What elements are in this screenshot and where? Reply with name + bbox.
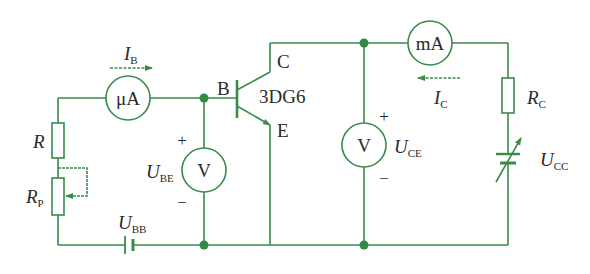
rc-label: RC [526, 87, 546, 110]
collector-loop-wires [270, 43, 508, 245]
uce-plus-sign: + [379, 107, 389, 126]
base-loop-wires [58, 98, 364, 245]
ube-minus-sign: − [177, 193, 187, 212]
rp-label: RP [25, 186, 44, 209]
r-label: R [32, 131, 45, 152]
ubb-label: UBB [118, 212, 146, 235]
base-label: B [217, 78, 230, 99]
emitter-label: E [277, 120, 289, 141]
circuit-diagram: μA mA V V B C E 3DG6 IB IC R RP RC UBB U… [0, 0, 590, 274]
transistor-model: 3DG6 [259, 86, 305, 107]
ib-label: IB [123, 43, 138, 66]
uce-minus-sign: − [379, 169, 389, 188]
battery-ubb [125, 236, 133, 254]
ube-voltmeter-symbol: V [197, 160, 211, 181]
ic-label: IC [433, 87, 448, 110]
microammeter-symbol: μA [116, 88, 140, 109]
resistor-rc [502, 78, 514, 113]
milliammeter-symbol: mA [416, 33, 445, 54]
uce-voltmeter-symbol: V [357, 135, 371, 156]
ucc-label: UCC [540, 149, 568, 172]
collector-label: C [277, 51, 290, 72]
resistor-r [52, 123, 64, 158]
ube-label: UBE [146, 161, 174, 184]
ube-plus-sign: + [177, 131, 187, 150]
uce-label: UCE [394, 136, 422, 159]
